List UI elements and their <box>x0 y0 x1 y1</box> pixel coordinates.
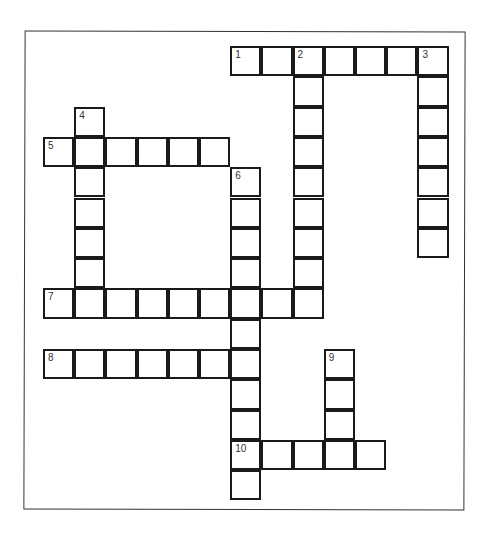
crossword-cell[interactable]: 2 <box>293 46 324 76</box>
crossword-cell[interactable] <box>74 258 105 288</box>
crossword-cell[interactable]: 1 <box>230 46 261 76</box>
crossword-cell[interactable] <box>137 349 168 379</box>
crossword-cell[interactable] <box>293 288 324 318</box>
crossword-cell[interactable] <box>199 349 230 379</box>
crossword-cell[interactable] <box>417 76 448 106</box>
crossword-cell[interactable] <box>74 288 105 318</box>
crossword-cell[interactable] <box>105 137 136 167</box>
crossword-cell[interactable]: 3 <box>417 46 448 76</box>
crossword-cell[interactable]: 5 <box>43 137 74 167</box>
clue-number: 10 <box>235 444 246 454</box>
crossword-cell[interactable] <box>417 228 448 258</box>
clue-number: 6 <box>235 171 241 181</box>
crossword-cell[interactable] <box>324 379 355 409</box>
crossword-cell[interactable]: 6 <box>230 167 261 197</box>
crossword-cell[interactable] <box>199 137 230 167</box>
crossword-cell[interactable]: 8 <box>43 349 74 379</box>
crossword-cell[interactable] <box>105 288 136 318</box>
crossword-cell[interactable] <box>293 137 324 167</box>
crossword-cell[interactable] <box>293 440 324 470</box>
crossword-cell[interactable] <box>230 379 261 409</box>
crossword-cell[interactable] <box>324 46 355 76</box>
clue-number: 4 <box>79 111 85 121</box>
crossword-cell[interactable] <box>230 470 261 500</box>
crossword-cell[interactable] <box>417 137 448 167</box>
crossword-cell[interactable]: 9 <box>324 349 355 379</box>
crossword-cell[interactable] <box>74 198 105 228</box>
crossword-cell[interactable] <box>137 137 168 167</box>
crossword-cell[interactable] <box>230 258 261 288</box>
crossword-cell[interactable] <box>293 228 324 258</box>
crossword-cell[interactable] <box>168 349 199 379</box>
crossword-cell[interactable] <box>74 137 105 167</box>
crossword-cell[interactable] <box>293 76 324 106</box>
crossword-cell[interactable] <box>261 46 292 76</box>
crossword-cell[interactable] <box>324 410 355 440</box>
clue-number: 7 <box>48 292 54 302</box>
crossword-cell[interactable] <box>74 349 105 379</box>
crossword-cell[interactable] <box>230 349 261 379</box>
clue-number: 3 <box>422 50 428 60</box>
crossword-cell[interactable] <box>324 440 355 470</box>
crossword-cell[interactable] <box>230 198 261 228</box>
crossword-cell[interactable] <box>168 137 199 167</box>
crossword-cell[interactable] <box>230 288 261 318</box>
crossword-cell[interactable] <box>293 258 324 288</box>
clue-number: 5 <box>48 141 54 151</box>
crossword-cell[interactable] <box>293 198 324 228</box>
crossword-cell[interactable] <box>137 288 168 318</box>
clue-number: 8 <box>48 353 54 363</box>
crossword-cell[interactable] <box>168 288 199 318</box>
crossword-cell[interactable] <box>386 46 417 76</box>
crossword-cell[interactable] <box>293 167 324 197</box>
crossword-cell[interactable] <box>199 288 230 318</box>
clue-number: 9 <box>329 353 335 363</box>
crossword-cell[interactable]: 7 <box>43 288 74 318</box>
crossword-cell[interactable] <box>355 46 386 76</box>
crossword-cell[interactable] <box>417 198 448 228</box>
crossword-cell[interactable] <box>293 107 324 137</box>
crossword-cell[interactable] <box>105 349 136 379</box>
crossword-cell[interactable] <box>230 228 261 258</box>
crossword-cell[interactable] <box>230 410 261 440</box>
clue-number: 1 <box>235 50 241 60</box>
clue-number: 2 <box>298 50 304 60</box>
crossword-cell[interactable]: 10 <box>230 440 261 470</box>
crossword-cell[interactable] <box>230 319 261 349</box>
crossword-cell[interactable] <box>74 167 105 197</box>
crossword-cell[interactable] <box>261 440 292 470</box>
crossword-cell[interactable] <box>417 167 448 197</box>
crossword-cell[interactable] <box>261 288 292 318</box>
crossword-cell[interactable] <box>74 228 105 258</box>
crossword-cell[interactable] <box>355 440 386 470</box>
crossword-cell[interactable]: 4 <box>74 107 105 137</box>
crossword-cell[interactable] <box>417 107 448 137</box>
